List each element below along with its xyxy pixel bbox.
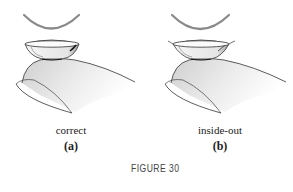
eye-curve-arc	[172, 15, 229, 29]
eye-curve-arc	[24, 15, 79, 29]
figure-caption: FIGURE 30	[131, 162, 175, 174]
panel-a-illustration	[16, 15, 135, 113]
figure-30: correct (a) inside-out (b) FIGURE 30	[0, 0, 293, 192]
panel-b-label: inside-out	[170, 124, 270, 136]
panel-b-sublabel: (b)	[200, 139, 240, 154]
panel-b-illustration	[165, 15, 286, 113]
contact-lens-icon	[168, 40, 235, 60]
panel-a-label: correct	[21, 124, 121, 136]
contact-lens-icon	[25, 40, 79, 60]
finger-icon	[165, 59, 286, 114]
finger-icon	[16, 59, 135, 114]
panel-a-sublabel: (a)	[51, 139, 91, 154]
